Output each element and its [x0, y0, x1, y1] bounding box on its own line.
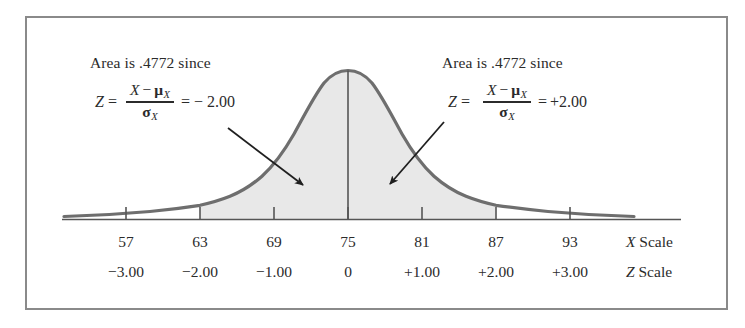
right-result-value: +2.00	[550, 94, 587, 110]
left-num-x: X	[130, 81, 139, 98]
x-tick-label: 87	[488, 233, 504, 251]
left-numerator: X−μX	[126, 82, 174, 101]
left-z-symbol: Z	[95, 94, 104, 110]
left-num-minus: −	[142, 81, 151, 98]
right-fraction: X−μX σX	[483, 82, 531, 122]
left-den-sigma: σ	[142, 103, 150, 120]
z-scale-word: Scale	[635, 263, 672, 280]
left-annotation-heading: Area is .4772 since	[90, 55, 211, 71]
left-annotation-formula: Z = X−μX σX = − 2.00	[95, 82, 235, 122]
z-scale-axis-label: Z Scale	[626, 263, 672, 281]
right-numerator: X−μX	[483, 82, 531, 101]
right-result-equals: =	[538, 94, 547, 110]
x-scale-axis-label: X Scale	[626, 233, 673, 251]
z-scale-symbol: Z	[626, 263, 635, 280]
z-tick-label: +2.00	[478, 263, 514, 281]
x-tick-label: 81	[414, 233, 430, 251]
x-tick-label: 57	[118, 233, 134, 251]
left-fraction: X−μX σX	[126, 82, 174, 122]
left-num-mu-subscript: X	[163, 89, 169, 100]
right-num-mu: μ	[511, 81, 520, 98]
right-equals-sign: =	[461, 94, 470, 110]
left-den-sigma-subscript: X	[151, 111, 157, 122]
left-equals-sign: =	[108, 94, 117, 110]
z-tick-label: +1.00	[404, 263, 440, 281]
axis-ticks	[126, 207, 570, 220]
right-num-x: X	[487, 81, 496, 98]
right-den-sigma: σ	[499, 103, 507, 120]
right-denominator: σX	[495, 103, 518, 122]
x-tick-label: 63	[192, 233, 208, 251]
right-num-minus: −	[499, 81, 508, 98]
right-annotation-heading: Area is .4772 since	[442, 55, 563, 71]
left-result-equals: =	[181, 94, 190, 110]
x-tick-label: 69	[266, 233, 282, 251]
z-tick-label: −3.00	[108, 263, 144, 281]
normal-distribution-figure: Area is .4772 since Z = X−μX σX = − 2.00…	[0, 0, 745, 328]
z-tick-label: 0	[344, 263, 352, 281]
left-result-value: − 2.00	[194, 94, 235, 110]
x-tick-label: 93	[562, 233, 578, 251]
right-z-symbol: Z	[448, 94, 457, 110]
z-tick-label: −2.00	[182, 263, 218, 281]
right-den-sigma-subscript: X	[508, 111, 514, 122]
right-annotation-formula: Z = X−μX σX = +2.00	[448, 82, 587, 122]
left-denominator: σX	[138, 103, 161, 122]
x-tick-label: 75	[340, 233, 356, 251]
z-tick-label: +3.00	[552, 263, 588, 281]
right-num-mu-subscript: X	[520, 89, 526, 100]
x-scale-word: Scale	[635, 233, 672, 250]
z-tick-label: −1.00	[256, 263, 292, 281]
left-num-mu: μ	[154, 81, 163, 98]
